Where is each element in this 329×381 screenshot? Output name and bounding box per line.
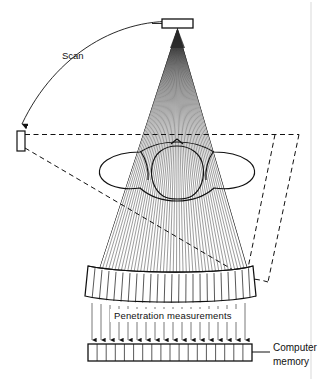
rotated-beam-dashed-lines <box>25 135 299 282</box>
ct-scanner-diagram: Scan Penetration measurements Computer m… <box>0 0 329 381</box>
computer-memory-array[interactable] <box>88 344 252 361</box>
computer-memory-label-line1: Computer <box>273 342 318 353</box>
x-ray-source[interactable] <box>162 19 193 28</box>
detector-array-rotated-position <box>246 135 299 283</box>
x-ray-source-rotated-position[interactable] <box>17 131 25 151</box>
diagram-canvas: Scan Penetration measurements Computer m… <box>0 0 329 381</box>
beam-collimator-shadow <box>170 28 185 48</box>
computer-memory-label-line2: memory <box>273 356 309 367</box>
detector-array[interactable] <box>85 266 256 303</box>
scan-label: Scan <box>62 50 84 61</box>
fan-beam-rays <box>90 28 256 297</box>
penetration-measurements-label: Penetration measurements <box>114 310 232 321</box>
